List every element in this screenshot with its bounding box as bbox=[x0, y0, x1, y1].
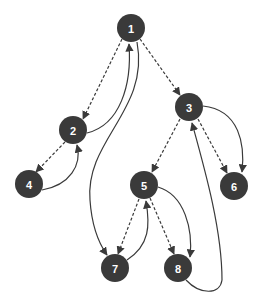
node-label: 2 bbox=[70, 125, 76, 137]
node-label: 3 bbox=[186, 102, 192, 114]
edge-1-to-7 bbox=[90, 42, 139, 255]
node-label: 5 bbox=[141, 180, 147, 192]
edge-3-to-6 bbox=[198, 119, 227, 173]
node-label: 8 bbox=[175, 263, 181, 275]
node-label: 6 bbox=[231, 181, 237, 193]
edge-5-to-7 bbox=[118, 199, 139, 254]
node-1: 1 bbox=[117, 14, 145, 42]
node-label: 1 bbox=[128, 23, 134, 35]
node-2: 2 bbox=[59, 116, 87, 144]
edge-1-to-2 bbox=[83, 39, 122, 119]
edge-5-to-8 bbox=[150, 198, 174, 254]
node-7: 7 bbox=[101, 254, 129, 282]
node-6: 6 bbox=[220, 172, 248, 200]
node-label: 4 bbox=[26, 179, 33, 191]
edge-2-to-1 bbox=[87, 44, 129, 133]
node-8: 8 bbox=[164, 254, 192, 282]
node-3: 3 bbox=[175, 93, 203, 121]
node-4: 4 bbox=[15, 170, 43, 198]
edge-1-to-3 bbox=[140, 39, 180, 95]
graph-diagram: 12345678 bbox=[0, 0, 267, 303]
non-tree-edges bbox=[42, 42, 243, 291]
edge-4-to-2 bbox=[42, 145, 78, 190]
edge-5-to-8 bbox=[158, 187, 191, 257]
edge-3-to-5 bbox=[152, 119, 180, 172]
node-5: 5 bbox=[130, 171, 158, 199]
edge-7-to-5 bbox=[127, 201, 148, 260]
node-label: 7 bbox=[112, 263, 118, 275]
edge-2-to-4 bbox=[36, 142, 65, 172]
